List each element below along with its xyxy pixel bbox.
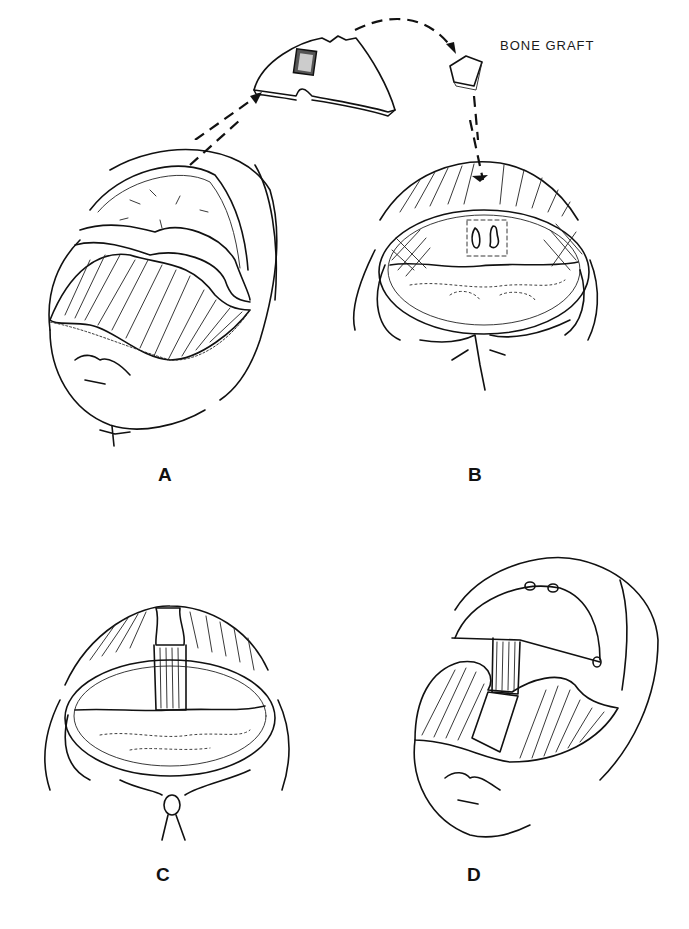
bone-flap-icon	[254, 36, 395, 116]
panel-a-illustration	[20, 120, 320, 450]
panel-d-illustration	[360, 490, 660, 850]
panel-c-illustration	[20, 520, 330, 850]
panel-label-d: D	[467, 864, 481, 886]
bone-flap-illustration	[0, 0, 689, 140]
bone-graft-label: BONE GRAFT	[500, 38, 595, 53]
panel-label-b: B	[468, 464, 482, 486]
bone-graft-icon	[450, 56, 482, 90]
panel-label-c: C	[156, 864, 170, 886]
caption-fragment	[30, 915, 660, 929]
panel-b-illustration	[340, 120, 670, 450]
panel-label-a: A	[158, 464, 172, 486]
